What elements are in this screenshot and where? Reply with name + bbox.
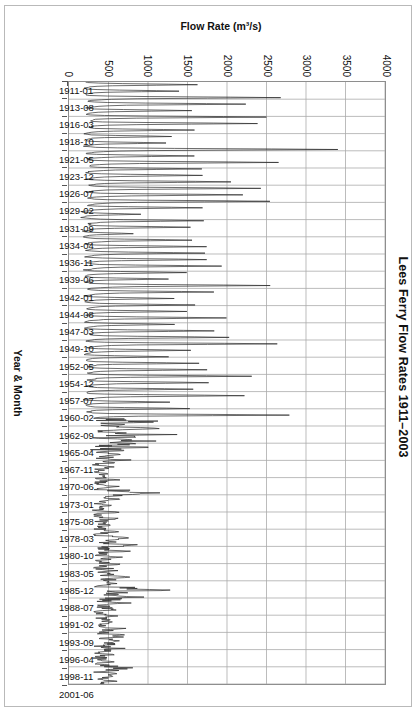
x-tick-label: 1978-03	[59, 533, 94, 544]
x-tick-label: 1983-05	[59, 567, 94, 578]
x-tick-label: 1913-08	[59, 101, 94, 112]
x-tick-mark	[62, 150, 67, 151]
y-axis-title: Flow Rate (m³/s)	[62, 20, 380, 32]
x-tick-mark	[62, 201, 67, 202]
x-tick-mark	[62, 512, 67, 513]
x-tick-mark	[62, 564, 67, 565]
x-tick-mark	[62, 236, 67, 237]
x-tick-label: 1960-02	[59, 412, 94, 423]
x-tick-mark	[62, 357, 67, 358]
x-tick-mark	[62, 529, 67, 530]
x-tick-label: 1918-10	[59, 136, 94, 147]
x-tick-mark	[62, 408, 67, 409]
x-tick-label: 1944-08	[59, 308, 94, 319]
x-tick-mark	[62, 305, 67, 306]
x-tick-label: 1916-03	[59, 119, 94, 130]
x-tick-label: 1996-04	[59, 653, 94, 664]
x-tick-label: 1911-01	[59, 84, 93, 95]
x-tick-label: 1998-11	[59, 671, 93, 682]
x-tick-label: 1967-11	[59, 464, 93, 475]
x-tick-label: 1965-04	[59, 446, 94, 457]
x-tick-label: 1934-04	[59, 239, 94, 250]
x-tick-mark	[62, 167, 67, 168]
x-tick-label: 1936-11	[59, 257, 93, 268]
x-tick-mark	[62, 598, 67, 599]
x-tick-label: 1947-03	[59, 326, 94, 337]
x-tick-mark	[62, 581, 67, 582]
x-tick-label: 1988-07	[59, 602, 94, 613]
x-tick-label: 1957-07	[59, 395, 94, 406]
x-tick-mark	[62, 219, 67, 220]
x-tick-mark	[62, 443, 67, 444]
x-tick-mark	[62, 184, 67, 185]
x-tick-mark	[62, 650, 67, 651]
x-tick-label: 1954-12	[59, 377, 94, 388]
x-tick-mark	[62, 685, 67, 686]
x-tick-mark	[62, 115, 67, 116]
x-tick-mark	[62, 288, 67, 289]
x-tick-mark	[62, 615, 67, 616]
x-tick-label: 1975-08	[59, 515, 94, 526]
x-tick-mark	[62, 322, 67, 323]
plot-area	[68, 81, 386, 685]
x-tick-mark	[62, 460, 67, 461]
x-tick-label: 1949-10	[59, 343, 94, 354]
x-tick-label: 1923-12	[59, 170, 94, 181]
x-tick-mark	[62, 477, 67, 478]
x-tick-label: 1931-09	[59, 222, 94, 233]
x-tick-mark	[62, 98, 67, 99]
x-tick-label: 1921-05	[59, 153, 94, 164]
chart-rotation-wrapper: Lees Ferry Flow Rates 1911–2003 05001000…	[0, 0, 418, 713]
x-tick-mark	[62, 374, 67, 375]
x-tick-mark	[62, 495, 67, 496]
x-tick-label: 2001-06	[59, 688, 94, 699]
x-tick-label: 1973-01	[59, 498, 94, 509]
x-tick-label: 1962-09	[59, 429, 94, 440]
x-tick-label: 1991-02	[59, 619, 94, 630]
x-tick-label: 1926-07	[59, 188, 94, 199]
x-tick-label: 1970-06	[59, 481, 94, 492]
x-axis-title: Year & Month	[12, 81, 24, 685]
x-tick-mark	[62, 633, 67, 634]
x-tick-mark	[62, 253, 67, 254]
x-tick-label: 1942-01	[59, 291, 94, 302]
flow-rate-chart: Lees Ferry Flow Rates 1911–2003 05001000…	[2, 7, 416, 707]
x-tick-mark	[62, 426, 67, 427]
x-tick-mark	[62, 132, 67, 133]
x-tick-mark	[62, 270, 67, 271]
x-tick-mark	[62, 339, 67, 340]
x-tick-label: 1929-02	[59, 205, 94, 216]
chart-title: Lees Ferry Flow Rates 1911–2003	[396, 7, 410, 707]
x-tick-mark	[62, 667, 67, 668]
x-tick-label: 1985-12	[59, 584, 94, 595]
y-tick-label: 4000	[381, 17, 392, 77]
x-tick-mark	[62, 81, 67, 82]
x-tick-label: 1980-10	[59, 550, 94, 561]
x-tick-mark	[62, 546, 67, 547]
flow-rate-line	[81, 82, 338, 684]
x-tick-mark	[62, 391, 67, 392]
flow-rate-series-svg	[69, 82, 385, 684]
x-tick-label: 1939-06	[59, 274, 94, 285]
x-tick-label: 1952-05	[59, 360, 94, 371]
x-tick-label: 1993-09	[59, 636, 94, 647]
